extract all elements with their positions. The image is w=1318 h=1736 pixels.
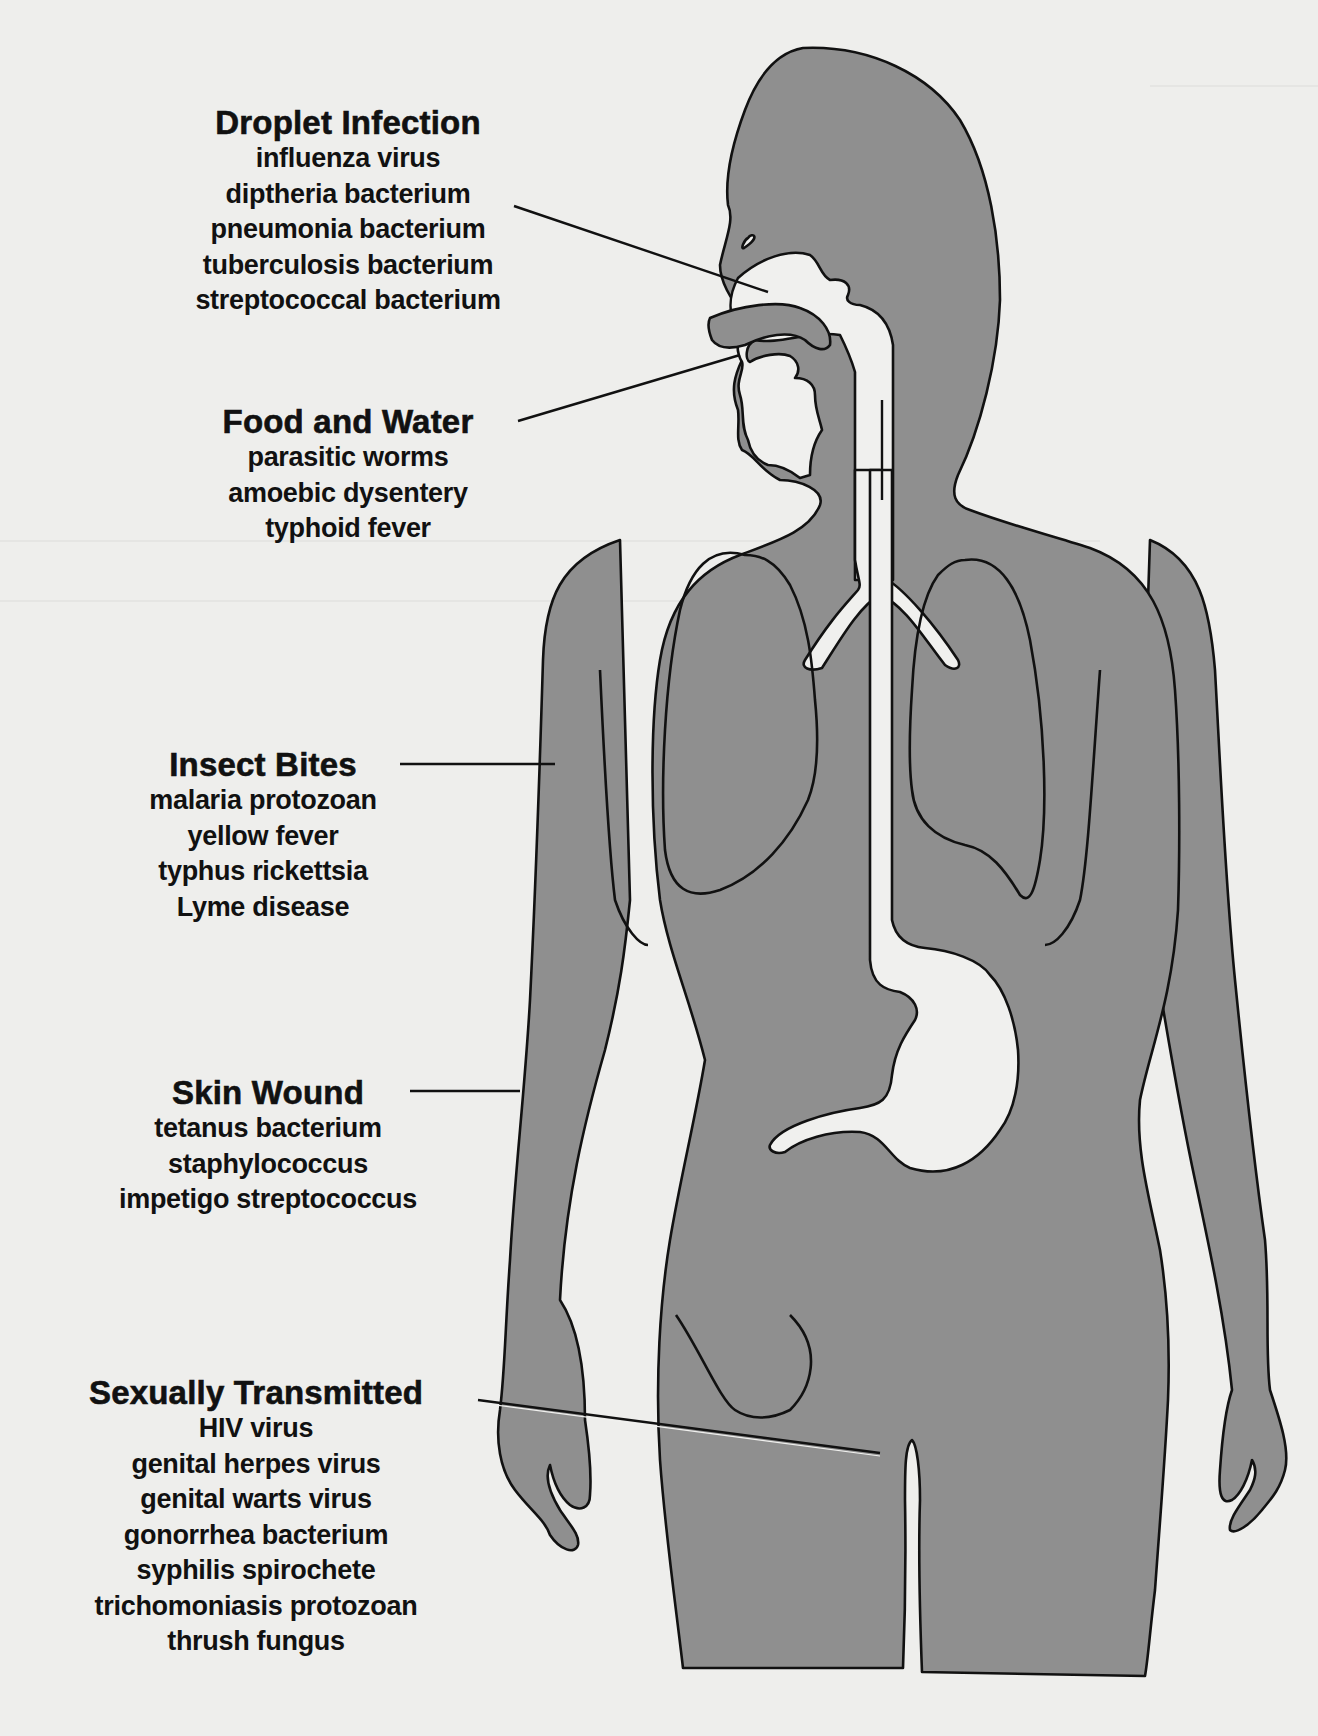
list-item: parasitic worms bbox=[223, 440, 474, 476]
list-item: staphylococcus bbox=[119, 1147, 417, 1183]
list-item: malaria protozoan bbox=[149, 783, 376, 819]
list-item: syphilis spirochete bbox=[89, 1553, 423, 1589]
label-insect-bites: Insect Bites malaria protozoan yellow fe… bbox=[149, 747, 376, 925]
list-item: typhoid fever bbox=[223, 511, 474, 547]
list-item: pneumonia bacterium bbox=[195, 212, 500, 248]
heading-skin-wound: Skin Wound bbox=[119, 1075, 417, 1111]
list-item: tetanus bacterium bbox=[119, 1111, 417, 1147]
list-item: genital warts virus bbox=[89, 1482, 423, 1518]
list-item: Lyme disease bbox=[149, 890, 376, 926]
list-item: impetigo streptococcus bbox=[119, 1182, 417, 1218]
label-droplet-infection: Droplet Infection influenza virus dipthe… bbox=[195, 105, 500, 319]
left-arm bbox=[498, 540, 630, 1550]
heading-droplet-infection: Droplet Infection bbox=[195, 105, 500, 141]
list-item: typhus rickettsia bbox=[149, 854, 376, 890]
heading-sexually-transmitted: Sexually Transmitted bbox=[89, 1375, 423, 1411]
list-item: diptheria bacterium bbox=[195, 177, 500, 213]
list-item: amoebic dysentery bbox=[223, 476, 474, 512]
label-food-and-water: Food and Water parasitic worms amoebic d… bbox=[223, 404, 474, 547]
list-item: HIV virus bbox=[89, 1411, 423, 1447]
list-item: yellow fever bbox=[149, 819, 376, 855]
list-item: genital herpes virus bbox=[89, 1447, 423, 1483]
heading-food-and-water: Food and Water bbox=[223, 404, 474, 440]
list-item: gonorrhea bacterium bbox=[89, 1518, 423, 1554]
label-sexually-transmitted: Sexually Transmitted HIV virus genital h… bbox=[89, 1375, 423, 1660]
list-item: streptococcal bacterium bbox=[195, 283, 500, 319]
list-item: tuberculosis bacterium bbox=[195, 248, 500, 284]
heading-insect-bites: Insect Bites bbox=[149, 747, 376, 783]
list-item: influenza virus bbox=[195, 141, 500, 177]
leader-food-water bbox=[518, 355, 740, 421]
label-skin-wound: Skin Wound tetanus bacterium staphylococ… bbox=[119, 1075, 417, 1218]
list-item: trichomoniasis protozoan bbox=[89, 1589, 423, 1625]
list-item: thrush fungus bbox=[89, 1624, 423, 1660]
